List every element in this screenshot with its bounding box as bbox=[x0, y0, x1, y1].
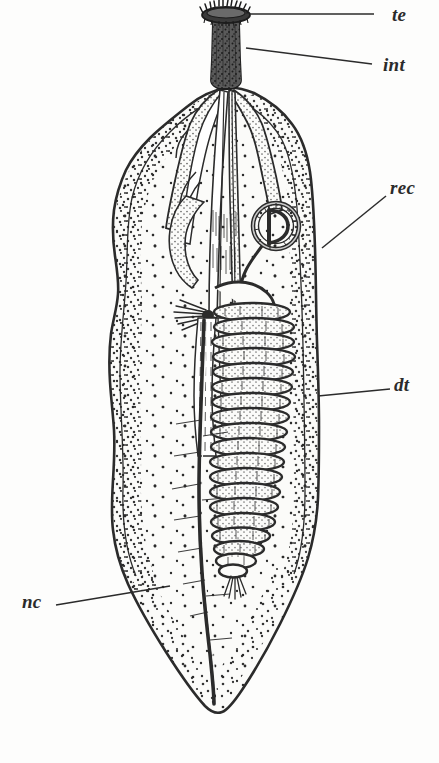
label-rec: rec bbox=[390, 178, 415, 197]
label-int: int bbox=[383, 55, 405, 74]
figure-container: te int rec dt nc bbox=[0, 0, 439, 763]
leader-rec bbox=[322, 196, 386, 248]
label-te: te bbox=[392, 5, 406, 24]
anatomical-illustration bbox=[0, 0, 439, 763]
leader-dt bbox=[318, 389, 390, 396]
leader-int bbox=[246, 48, 372, 64]
label-nc: nc bbox=[22, 592, 42, 611]
tentacle-crown bbox=[200, 0, 250, 26]
introvert-proboscis bbox=[205, 18, 249, 92]
label-dt: dt bbox=[394, 375, 409, 394]
